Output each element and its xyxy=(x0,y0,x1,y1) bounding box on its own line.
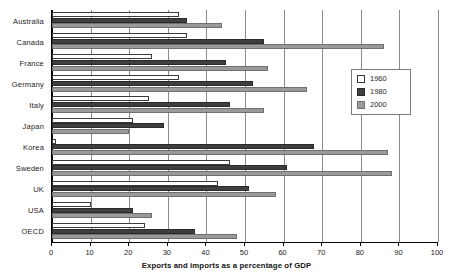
bar-chart: AustraliaCanadaFranceGermanyItalyJapanKo… xyxy=(0,0,453,279)
y-axis-category-labels: AustraliaCanadaFranceGermanyItalyJapanKo… xyxy=(0,10,48,242)
bar-group xyxy=(52,158,437,179)
bar-france-2000 xyxy=(52,66,268,71)
bar-germany-2000 xyxy=(52,87,307,92)
y-axis-label-germany: Germany xyxy=(12,79,44,88)
x-tick-label-0: 0 xyxy=(49,248,53,257)
x-tick-label-20: 20 xyxy=(124,248,132,257)
bar-australia-1980 xyxy=(52,18,187,23)
x-axis-title: Exports and imports as a percentage of G… xyxy=(0,261,453,270)
legend-label-1980: 1980 xyxy=(370,87,387,96)
bar-group xyxy=(52,115,437,136)
bar-korea-1980 xyxy=(52,144,314,149)
bar-uk-1960 xyxy=(52,181,218,186)
bar-canada-1960 xyxy=(52,33,187,38)
x-tick-label-50: 50 xyxy=(240,248,248,257)
legend-item-1980: 1980 xyxy=(357,87,405,96)
bar-group xyxy=(52,31,437,52)
bar-japan-2000 xyxy=(52,129,129,134)
bar-oecd-2000 xyxy=(52,234,237,239)
bar-italy-1980 xyxy=(52,102,230,107)
x-tick-label-70: 70 xyxy=(317,248,325,257)
bar-canada-2000 xyxy=(52,44,384,49)
legend: 1960 1980 2000 xyxy=(351,69,411,115)
x-tick-10 xyxy=(90,242,91,246)
x-tick-label-100: 100 xyxy=(431,248,444,257)
legend-item-1960: 1960 xyxy=(357,74,405,83)
x-tick-30 xyxy=(167,242,168,246)
bar-uk-2000 xyxy=(52,192,276,197)
x-tick-label-10: 10 xyxy=(85,248,93,257)
bar-korea-2000 xyxy=(52,150,388,155)
bar-oecd-1980 xyxy=(52,229,195,234)
x-tick-40 xyxy=(205,242,206,246)
bar-uk-1980 xyxy=(52,186,249,191)
bar-oecd-1960 xyxy=(52,223,145,228)
bar-usa-2000 xyxy=(52,213,152,218)
legend-label-2000: 2000 xyxy=(370,100,387,109)
y-axis-label-canada: Canada xyxy=(17,37,44,46)
x-tick-50 xyxy=(244,242,245,246)
y-axis-label-usa: USA xyxy=(28,206,44,215)
bar-group xyxy=(52,179,437,200)
bar-germany-1980 xyxy=(52,81,253,86)
x-tick-80 xyxy=(360,242,361,246)
x-tick-label-30: 30 xyxy=(163,248,171,257)
x-tick-70 xyxy=(321,242,322,246)
bar-usa-1960 xyxy=(52,202,91,207)
bar-canada-1980 xyxy=(52,39,264,44)
legend-swatch-1960-icon xyxy=(357,75,365,83)
bar-sweden-1980 xyxy=(52,165,287,170)
bars-layer xyxy=(52,10,437,242)
bar-group xyxy=(52,200,437,221)
x-tick-label-90: 90 xyxy=(394,248,402,257)
x-tick-label-60: 60 xyxy=(278,248,286,257)
x-tick-0 xyxy=(51,242,52,246)
y-axis-label-italy: Italy xyxy=(29,100,44,109)
y-axis-label-uk: UK xyxy=(33,185,44,194)
bar-france-1980 xyxy=(52,60,226,65)
x-tick-60 xyxy=(283,242,284,246)
y-axis-label-korea: Korea xyxy=(23,143,44,152)
x-tick-90 xyxy=(398,242,399,246)
bar-france-1960 xyxy=(52,54,152,59)
legend-swatch-2000-icon xyxy=(357,101,365,109)
bar-australia-2000 xyxy=(52,23,222,28)
bar-germany-1960 xyxy=(52,75,179,80)
bar-italy-2000 xyxy=(52,108,264,113)
legend-item-2000: 2000 xyxy=(357,100,405,109)
bar-australia-1960 xyxy=(52,12,179,17)
legend-label-1960: 1960 xyxy=(370,74,387,83)
x-tick-label-40: 40 xyxy=(201,248,209,257)
bar-japan-1960 xyxy=(52,118,133,123)
y-axis-label-france: France xyxy=(19,58,44,67)
bar-korea-1960 xyxy=(52,139,56,144)
bar-group xyxy=(52,10,437,31)
bar-usa-1980 xyxy=(52,208,133,213)
legend-swatch-1980-icon xyxy=(357,88,365,96)
bar-sweden-1960 xyxy=(52,160,230,165)
gridline-100 xyxy=(438,10,439,242)
x-tick-20 xyxy=(128,242,129,246)
y-axis-label-japan: Japan xyxy=(23,122,44,131)
y-axis-label-australia: Australia xyxy=(13,16,44,25)
bar-group xyxy=(52,221,437,242)
plot-area xyxy=(51,10,437,242)
bar-sweden-2000 xyxy=(52,171,392,176)
x-tick-100 xyxy=(437,242,438,246)
y-axis-label-oecd: OECD xyxy=(22,227,44,236)
bar-japan-1980 xyxy=(52,123,164,128)
x-tick-label-80: 80 xyxy=(356,248,364,257)
y-axis-label-sweden: Sweden xyxy=(16,164,44,173)
bar-group xyxy=(52,137,437,158)
bar-italy-1960 xyxy=(52,96,149,101)
